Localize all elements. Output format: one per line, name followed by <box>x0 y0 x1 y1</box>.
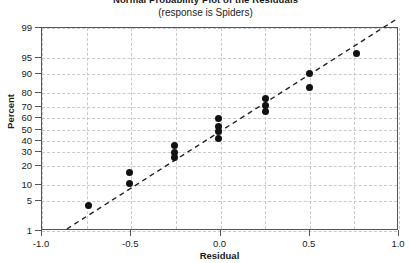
y-tick-label: 60 <box>21 112 32 123</box>
x-tick-mark <box>130 230 131 236</box>
y-tick-mark <box>35 27 41 28</box>
x-tick-mark <box>41 230 42 236</box>
y-tick-mark <box>35 73 41 74</box>
data-point <box>215 135 222 142</box>
data-point <box>306 84 313 91</box>
y-tick-label: 20 <box>21 160 32 171</box>
data-point <box>262 108 269 115</box>
data-point <box>126 180 133 187</box>
data-points <box>42 28 397 229</box>
y-tick-mark <box>35 129 41 130</box>
data-point <box>85 202 92 209</box>
x-tick-label: -0.5 <box>122 238 138 249</box>
y-tick-label: 95 <box>21 51 32 62</box>
y-tick-mark <box>35 140 41 141</box>
x-tick-label: -1.0 <box>33 238 49 249</box>
y-tick-label: 30 <box>21 146 32 157</box>
chart-subtitle: (response is Spiders) <box>0 7 411 18</box>
data-point <box>306 70 313 77</box>
x-axis-label: Residual <box>41 250 398 261</box>
y-tick-label: 90 <box>21 67 32 78</box>
data-point <box>353 50 360 57</box>
y-tick-label: 99 <box>21 22 32 33</box>
normal-probability-plot: Normal Probability Plot of the Residuals… <box>0 0 411 263</box>
y-tick-mark <box>35 200 41 201</box>
y-tick-mark <box>35 92 41 93</box>
data-point <box>171 142 178 149</box>
x-tick-mark <box>220 230 221 236</box>
data-point <box>126 169 133 176</box>
y-axis-label: Percent <box>5 82 16 142</box>
plot-area <box>41 27 398 230</box>
y-tick-label: 10 <box>21 179 32 190</box>
x-tick-label: 0.5 <box>302 238 315 249</box>
x-tick-label: 0.0 <box>213 238 226 249</box>
x-tick-label: 1.0 <box>391 238 404 249</box>
data-point <box>215 115 222 122</box>
y-tick-label: 70 <box>21 100 32 111</box>
y-tick-mark <box>35 165 41 166</box>
y-tick-mark <box>35 184 41 185</box>
y-tick-label: 1 <box>27 225 32 236</box>
gridline-vertical <box>399 28 400 229</box>
data-point <box>171 154 178 161</box>
y-tick-mark <box>35 151 41 152</box>
x-tick-mark <box>309 230 310 236</box>
y-tick-label: 40 <box>21 134 32 145</box>
chart-title: Normal Probability Plot of the Residuals <box>0 0 411 5</box>
y-tick-label: 50 <box>21 123 32 134</box>
y-tick-mark <box>35 117 41 118</box>
x-tick-mark <box>398 230 399 236</box>
y-tick-label: 80 <box>21 86 32 97</box>
y-tick-label: 5 <box>27 195 32 206</box>
y-tick-mark <box>35 106 41 107</box>
y-tick-mark <box>35 57 41 58</box>
